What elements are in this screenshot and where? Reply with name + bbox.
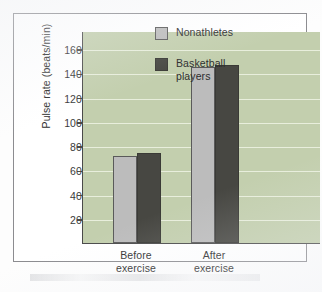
legend-label-line1: Nonathletes [176, 26, 233, 39]
legend-label: Nonathletes [176, 26, 233, 39]
x-category-label-before-exercise: Beforeexercise [93, 249, 179, 275]
y-axis-ticks: 20406080100120140160 [44, 32, 82, 244]
legend-swatch-basketball-players [155, 58, 168, 71]
chart-legend: NonathletesBasketballplayers [155, 26, 251, 99]
legend-label-line1: Basketball [176, 57, 225, 70]
legend-label: Basketballplayers [176, 57, 225, 82]
legend-item-nonathletes: Nonathletes [155, 26, 251, 40]
legend-swatch-nonathletes [155, 27, 168, 40]
legend-item-basketball-players: Basketballplayers [155, 57, 251, 82]
bar-before-basketball-players [137, 153, 161, 243]
x-category-label-after-exercise: Afterexercise [171, 249, 257, 275]
x-category-line1: Before [93, 249, 179, 262]
x-category-line1: After [171, 249, 257, 262]
figure-root: Pulse rate (beats/min) 20406080100120140… [0, 0, 322, 292]
bar-before-nonathletes [113, 156, 137, 243]
figure-border: Pulse rate (beats/min) 20406080100120140… [13, 13, 307, 262]
figure-caption-strip [30, 274, 260, 281]
legend-label-line2: players [176, 70, 225, 83]
